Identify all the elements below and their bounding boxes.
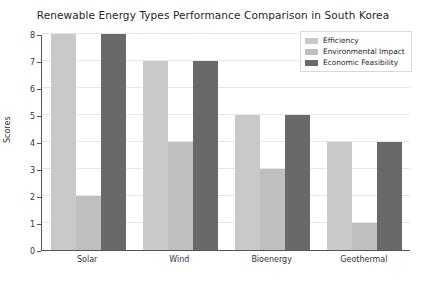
y-tick-mark [37,62,41,63]
y-tick-mark [37,224,41,225]
y-tick-label: 7 [13,58,35,67]
y-tick-label: 0 [13,247,35,256]
y-tick-label: 3 [13,166,35,175]
x-tick-label: Wind [169,255,189,264]
bar[interactable] [285,115,310,250]
y-tick-mark [37,170,41,171]
y-tick-mark [37,197,41,198]
chart-figure: Renewable Energy Types Performance Compa… [0,0,426,282]
bar[interactable] [76,196,101,250]
bar[interactable] [143,61,168,250]
bar-group [235,35,310,250]
y-tick-mark [37,89,41,90]
y-tick-mark [37,116,41,117]
x-tick-label: Bioenergy [251,255,291,264]
bar[interactable] [193,61,218,250]
legend-label: Efficiency [323,36,359,45]
y-tick-label: 4 [13,139,35,148]
legend-swatch [305,38,318,44]
y-tick-label: 1 [13,220,35,229]
x-tick-label: Solar [77,255,97,264]
y-tick-label: 2 [13,193,35,202]
bar[interactable] [352,223,377,250]
legend-label: Environmental Impact [323,47,405,56]
bar[interactable] [101,34,126,250]
bar[interactable] [327,142,352,250]
bar[interactable] [51,34,76,250]
chart-title: Renewable Energy Types Performance Compa… [0,9,426,21]
bar-group [143,35,218,250]
bar[interactable] [260,169,285,250]
legend-item[interactable]: Environmental Impact [305,46,405,57]
legend-item[interactable]: Economic Feasibility [305,57,405,68]
y-tick-label: 6 [13,85,35,94]
chart-legend: EfficiencyEnvironmental ImpactEconomic F… [300,31,412,72]
x-tick-label: Geothermal [340,255,387,264]
y-tick-mark [37,251,41,252]
y-tick-mark [37,35,41,36]
legend-swatch [305,60,318,66]
bar-group [51,35,126,250]
legend-item[interactable]: Efficiency [305,35,405,46]
y-tick-label: 8 [13,31,35,40]
y-tick-mark [37,143,41,144]
y-tick-label: 5 [13,112,35,121]
legend-label: Economic Feasibility [323,58,398,67]
y-axis-label: Scores [3,116,12,143]
bar[interactable] [235,115,260,250]
bar[interactable] [168,142,193,250]
bar[interactable] [377,142,402,250]
legend-swatch [305,49,318,55]
